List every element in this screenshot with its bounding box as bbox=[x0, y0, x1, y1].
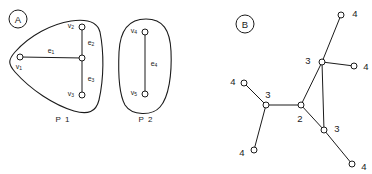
vertex-label-v4: v4 bbox=[131, 27, 138, 36]
edge-e1 bbox=[20, 57, 82, 58]
node-n-left-leaf bbox=[241, 80, 247, 86]
region-outline-p1 bbox=[10, 20, 103, 112]
edge-label-e1: e1 bbox=[48, 47, 55, 56]
degree-label-n-hub-top: 3 bbox=[305, 55, 310, 66]
region-label-p2: P 2 bbox=[139, 115, 154, 124]
region-label-p1: P 1 bbox=[56, 115, 71, 124]
degree-label-n-lower-leaf: 4 bbox=[239, 147, 244, 158]
degree-label-n-bottom-leaf: 4 bbox=[361, 161, 366, 172]
vertex-label-v1: v1 bbox=[16, 63, 23, 72]
panel-b-nodes bbox=[241, 12, 357, 167]
vertex-v3 bbox=[79, 92, 85, 98]
node-n-hub-top bbox=[319, 59, 325, 65]
node-n-right-leaf bbox=[351, 63, 357, 69]
node-n-center bbox=[298, 102, 304, 108]
node-n-bottom-leaf bbox=[349, 161, 355, 167]
edge-e-hubleft-leftleaf bbox=[244, 83, 266, 105]
figure-svg: P 1P 2 v1v2v3v4v5 e1e2e3e4 443342344 AB bbox=[0, 0, 372, 174]
panel-b-edges bbox=[244, 15, 354, 164]
degree-label-n-right-leaf: 4 bbox=[363, 61, 368, 72]
degree-label-n-hub-bottom: 3 bbox=[334, 123, 339, 134]
node-n-lower-leaf bbox=[251, 147, 257, 153]
degree-label-n-top-leaf: 4 bbox=[352, 8, 357, 19]
vertex-v2 bbox=[79, 24, 85, 30]
vertex-label-v3: v3 bbox=[68, 90, 75, 99]
panel-badge-label-a: A bbox=[15, 14, 22, 25]
degree-label-n-left-leaf: 4 bbox=[230, 76, 235, 87]
edge-label-e2: e2 bbox=[88, 39, 95, 48]
edge-e-topleaf-hubtop bbox=[322, 15, 341, 62]
edge-e-hubtop-rightleaf bbox=[322, 62, 354, 66]
edge-e-hubtop-center bbox=[301, 62, 322, 105]
panel-badge-label-b: B bbox=[242, 19, 248, 30]
node-n-top-leaf bbox=[338, 12, 344, 18]
vertex-label-v5: v5 bbox=[131, 89, 138, 98]
edge-e-hubtop-hubbottom bbox=[322, 62, 324, 130]
vertex-v1 bbox=[17, 54, 23, 60]
node-n-hub-bottom bbox=[321, 127, 327, 133]
edge-e-hubleft-lowerleaf bbox=[254, 105, 266, 150]
degree-label-n-center: 2 bbox=[297, 113, 302, 124]
figure-canvas: P 1P 2 v1v2v3v4v5 e1e2e3e4 443342344 AB bbox=[0, 0, 372, 174]
vertex-v5 bbox=[142, 91, 148, 97]
edge-label-e4: e4 bbox=[151, 60, 158, 69]
vertex-hub bbox=[79, 55, 85, 61]
vertex-label-v2: v2 bbox=[68, 22, 75, 31]
edge-e-hubbottom-botleaf bbox=[324, 130, 352, 164]
node-n-hub-left bbox=[263, 102, 269, 108]
vertex-v4 bbox=[142, 29, 148, 35]
degree-label-n-hub-left: 3 bbox=[265, 89, 270, 100]
edge-label-e3: e3 bbox=[88, 75, 95, 84]
edge-e-center-hubbottom bbox=[301, 105, 324, 130]
